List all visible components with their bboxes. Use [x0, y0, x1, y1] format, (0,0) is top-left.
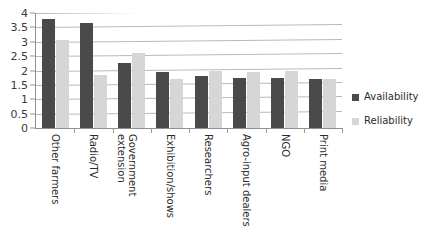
- bar-reliability: [323, 79, 336, 128]
- bar-reliability: [170, 79, 183, 128]
- legend-swatch-icon: [352, 94, 359, 101]
- x-axis-tick-labels: Other farmersRadio/TVGovernment extensio…: [36, 134, 342, 242]
- y-axis-tick-label: 0: [21, 123, 28, 134]
- y-axis-tick-label: 3: [21, 36, 28, 47]
- bar-availability: [271, 78, 284, 128]
- bar-availability: [80, 23, 93, 128]
- x-axis-tick-mark: [304, 128, 305, 133]
- bar-group: [195, 13, 222, 128]
- x-axis-tick-label: Exhibition/shows: [164, 134, 175, 238]
- x-axis-tick-marks: [36, 128, 342, 133]
- bar-reliability: [94, 75, 107, 128]
- legend-item[interactable]: Reliability: [352, 116, 434, 126]
- bar-availability: [195, 76, 208, 128]
- legend-swatch-icon: [352, 118, 359, 125]
- y-axis-tick-label: 2.5: [11, 51, 29, 62]
- bar-group: [42, 13, 69, 128]
- x-axis-tick-label: Print media: [317, 134, 328, 238]
- x-axis-tick-label: Researchers: [203, 134, 214, 238]
- bar-group: [233, 13, 260, 128]
- bar-reliability: [56, 40, 69, 128]
- bar-chart: 00.511.522.533.54 Other farmersRadio/TVG…: [0, 0, 434, 244]
- bar-availability: [233, 78, 246, 128]
- x-axis-tick-mark: [74, 128, 75, 133]
- x-axis-tick-label: Government extension: [116, 134, 137, 238]
- y-axis-tick-label: 1: [21, 94, 28, 105]
- x-axis-tick-mark: [151, 128, 152, 133]
- y-axis-tick-label: 1.5: [11, 79, 29, 90]
- bar-group: [118, 13, 145, 128]
- bar-availability: [156, 72, 169, 128]
- x-axis-tick-mark: [342, 128, 343, 133]
- y-axis-tick-labels: 00.511.522.533.54: [0, 0, 30, 244]
- y-axis-tick-label: 4: [21, 8, 28, 19]
- y-axis-tick-label: 0.5: [11, 108, 29, 119]
- chart-legend: AvailabilityReliability: [352, 92, 434, 140]
- bar-group: [156, 13, 183, 128]
- bar-reliability: [247, 72, 260, 128]
- bars-layer: [36, 13, 342, 128]
- plot-area: [36, 13, 342, 128]
- x-axis-tick-mark: [266, 128, 267, 133]
- legend-label: Availability: [364, 92, 419, 102]
- x-axis-tick-mark: [227, 128, 228, 133]
- bar-reliability: [132, 53, 145, 128]
- bar-availability: [42, 19, 55, 128]
- y-axis-tick-label: 3.5: [11, 22, 29, 33]
- bar-reliability: [209, 71, 222, 129]
- bar-group: [309, 13, 336, 128]
- x-axis-tick-label: NGO: [279, 134, 290, 238]
- x-axis-tick-label: Agro-input dealers: [241, 134, 252, 238]
- bar-group: [271, 13, 298, 128]
- bar-group: [80, 13, 107, 128]
- x-axis-tick-label: Radio/TV: [88, 134, 99, 238]
- legend-item[interactable]: Availability: [352, 92, 434, 102]
- legend-label: Reliability: [364, 116, 413, 126]
- x-axis-tick-mark: [189, 128, 190, 133]
- x-axis-tick-label: Other farmers: [50, 134, 61, 238]
- bar-availability: [118, 63, 131, 128]
- bar-reliability: [285, 71, 298, 129]
- bar-availability: [309, 79, 322, 128]
- x-axis-tick-mark: [113, 128, 114, 133]
- y-axis-tick-label: 2: [21, 65, 28, 76]
